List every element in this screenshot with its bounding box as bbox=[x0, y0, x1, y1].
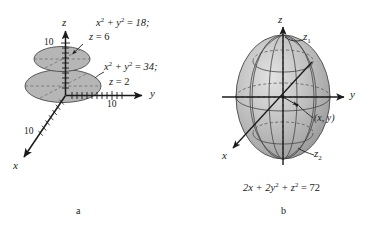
condition-upper-disk-var: z bbox=[89, 31, 96, 42]
condition-upper-disk: z = 6 bbox=[89, 32, 110, 43]
axis-label-z-b: z bbox=[278, 14, 282, 25]
label-z1-sub: 1 bbox=[307, 37, 311, 45]
equation-lower-disk-value: 34; bbox=[144, 61, 158, 72]
point-xy-dot bbox=[295, 103, 298, 106]
equation-lower-disk: x2 + y2 = 34; bbox=[104, 62, 158, 73]
axis-label-z-a: z bbox=[62, 17, 66, 28]
equation-ellipsoid: 2x + 2y2 + z2 = 72 bbox=[243, 183, 320, 194]
tick-label-x-a: 10 bbox=[24, 127, 34, 137]
panel-b-graphics bbox=[222, 27, 344, 165]
axis-label-x-a: x bbox=[13, 160, 18, 171]
condition-lower-disk-value: = 2 bbox=[116, 76, 130, 87]
label-point-xy: (x, y) bbox=[314, 113, 335, 123]
label-z1: z1 bbox=[303, 31, 311, 42]
figure-container: z y x 10 10 10 x2 + y2 = 18; z = 6 x2 + … bbox=[0, 0, 370, 225]
disk-lower bbox=[25, 70, 101, 103]
equation-lower-disk-lhs: x2 + y2 = bbox=[104, 61, 144, 72]
condition-upper-disk-value: = 6 bbox=[96, 31, 110, 42]
label-z2: z2 bbox=[314, 148, 322, 159]
caption-panel-a: a bbox=[76, 205, 80, 216]
panel-a-graphics bbox=[24, 31, 142, 157]
axis-label-x-b: x bbox=[222, 150, 227, 161]
equation-upper-disk: x2 + y2 = 18; bbox=[96, 18, 150, 29]
condition-lower-disk: z = 2 bbox=[109, 77, 130, 88]
origin-dot bbox=[281, 95, 285, 99]
equation-upper-disk-lhs: x2 + y2 = bbox=[96, 17, 136, 28]
label-z2-sub: 2 bbox=[318, 154, 322, 162]
caption-panel-b: b bbox=[281, 205, 286, 216]
equation-ellipsoid-rhs: = 72 bbox=[301, 182, 320, 193]
axis-label-y-b: y bbox=[350, 89, 355, 100]
tick-label-y-a: 10 bbox=[107, 100, 117, 110]
equation-ellipsoid-lhs: 2x + 2y2 + z2 bbox=[243, 182, 301, 193]
axis-label-y-a: y bbox=[150, 88, 155, 99]
leader-lower-disk bbox=[95, 72, 104, 78]
equation-upper-disk-value: 18; bbox=[136, 17, 150, 28]
tick-label-z-a: 10 bbox=[44, 38, 54, 48]
axis-y-a bbox=[66, 91, 143, 100]
condition-lower-disk-var: z bbox=[109, 76, 116, 87]
